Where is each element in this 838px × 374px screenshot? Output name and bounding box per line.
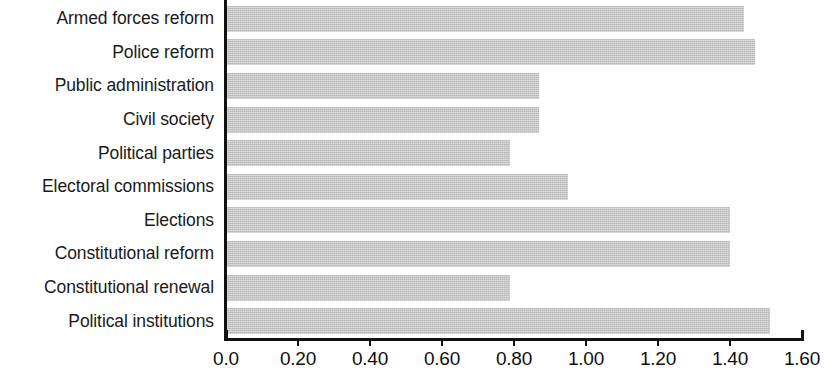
y-axis-line: [224, 0, 227, 340]
x-axis-tick-label: 1.60: [784, 348, 820, 370]
bar: [226, 241, 730, 267]
bar: [226, 39, 755, 65]
x-axis-tick: [297, 338, 299, 346]
x-axis-tick-label: 1.00: [568, 348, 604, 370]
x-axis-tick-label: 1.40: [712, 348, 748, 370]
plot-area: [226, 2, 802, 338]
category-label: Armed forces reform: [0, 2, 220, 36]
category-axis-labels: Armed forces reformPolice reformPublic a…: [0, 2, 220, 338]
category-label: Police reform: [0, 36, 220, 70]
x-axis-tick: [657, 338, 659, 346]
bar-series: [226, 2, 802, 338]
category-label: Civil society: [0, 103, 220, 137]
bar: [226, 73, 539, 99]
bar-row: [226, 170, 802, 204]
category-label: Political institutions: [0, 304, 220, 338]
x-axis-tick: [729, 338, 731, 346]
bar: [226, 174, 568, 200]
x-axis-tick-label: 1.20: [640, 348, 676, 370]
bar-row: [226, 271, 802, 305]
category-label: Political parties: [0, 136, 220, 170]
bar-row: [226, 237, 802, 271]
x-axis-tick: [441, 338, 443, 346]
bar-row: [226, 36, 802, 70]
category-label: Electoral commissions: [0, 170, 220, 204]
x-axis-tick: [513, 338, 515, 346]
x-axis-tick-label: 0.20: [280, 348, 316, 370]
bar-row: [226, 136, 802, 170]
bar: [226, 207, 730, 233]
category-label: Elections: [0, 204, 220, 238]
bar-row: [226, 2, 802, 36]
bar-chart: Armed forces reformPolice reformPublic a…: [0, 0, 838, 374]
x-axis-tick-label: 0.80: [496, 348, 532, 370]
x-axis-tick-label: 0.40: [352, 348, 388, 370]
x-axis-tick-label: 0.0: [213, 348, 239, 370]
bar: [226, 308, 770, 334]
x-axis-tick: [585, 338, 587, 346]
x-axis-tick: [801, 330, 804, 341]
bar: [226, 275, 510, 301]
bar-row: [226, 204, 802, 238]
x-axis-tick-label: 0.60: [424, 348, 460, 370]
x-axis-tick: [225, 330, 228, 341]
bar: [226, 140, 510, 166]
category-label: Constitutional renewal: [0, 271, 220, 305]
bar: [226, 6, 744, 32]
x-axis-tick: [369, 338, 371, 346]
bar-row: [226, 69, 802, 103]
bar-row: [226, 103, 802, 137]
bar: [226, 107, 539, 133]
category-label: Public administration: [0, 69, 220, 103]
bar-row: [226, 304, 802, 338]
category-label: Constitutional reform: [0, 237, 220, 271]
